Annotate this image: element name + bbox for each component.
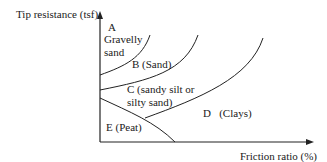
diagram-canvas bbox=[0, 0, 327, 162]
zone-d-label: D (Clays) bbox=[203, 107, 252, 119]
zone-c-label-2: silty sand) bbox=[127, 96, 173, 108]
x-axis-label: Friction ratio (%) bbox=[240, 150, 317, 162]
zone-a-name-1: Gravelly bbox=[104, 33, 142, 45]
x-axis-arrow-icon bbox=[306, 139, 314, 145]
zone-a-name-2: sand bbox=[104, 46, 124, 58]
zone-a-letter: A bbox=[108, 21, 116, 33]
zone-b-label: B (Sand) bbox=[132, 58, 171, 70]
zone-e-label: E (Peat) bbox=[106, 121, 142, 133]
zone-c-label-1: C (sandy silt or bbox=[127, 83, 195, 95]
y-axis-label: Tip resistance (tsf) bbox=[16, 8, 98, 20]
